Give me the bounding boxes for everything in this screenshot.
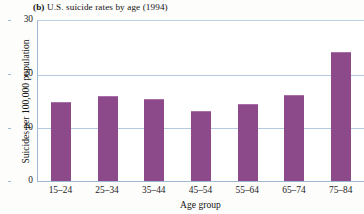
x-tick-label: 25–34: [84, 185, 131, 196]
bar[interactable]: [51, 102, 71, 181]
bar[interactable]: [191, 111, 211, 181]
bar[interactable]: [284, 95, 304, 181]
bar-slot: [131, 21, 178, 181]
x-tick-label: 75–84: [317, 185, 364, 196]
y-axis-label: Suicides per 100,000 population: [20, 14, 31, 189]
x-tick-label: 65–74: [271, 185, 318, 196]
bar-slot: [271, 21, 318, 181]
bar-slot: [38, 21, 85, 181]
bar-slot: [224, 21, 271, 181]
x-tick-label: 55–64: [224, 185, 271, 196]
y-tick-30: 30: [11, 15, 33, 24]
x-axis-line: [38, 181, 364, 182]
bar-slot: [178, 21, 225, 181]
bar[interactable]: [238, 104, 258, 181]
bar[interactable]: [98, 96, 118, 181]
bar-chart-figure: (b) U.S. suicide rates by age (1994) Sui…: [0, 0, 364, 214]
y-tick-10: 10: [11, 123, 33, 132]
plot-area: [37, 20, 364, 182]
bar[interactable]: [144, 99, 164, 181]
y-tick-20: 20: [11, 69, 33, 78]
y-tick-mark-0: [8, 181, 11, 182]
x-tick-label: 45–54: [177, 185, 224, 196]
y-tick-mark-30: [8, 20, 11, 21]
y-tick-mark-10: [8, 128, 11, 129]
x-tick-label: 35–44: [130, 185, 177, 196]
bar-slot: [85, 21, 132, 181]
y-tick-0: 0: [11, 176, 33, 185]
x-tick-label: 15–24: [37, 185, 84, 196]
bar[interactable]: [331, 52, 351, 181]
x-axis-tick-labels: 15–2425–3435–4445–5455–6465–7475–84: [37, 185, 364, 196]
chart-title: (b) U.S. suicide rates by age (1994): [33, 1, 168, 13]
panel-letter: (b): [33, 2, 45, 12]
x-axis-label: Age group: [37, 199, 364, 210]
y-tick-mark-20: [8, 74, 11, 75]
bar-series: [38, 21, 364, 181]
chart-title-text: U.S. suicide rates by age (1994): [45, 2, 168, 12]
bar-slot: [317, 21, 364, 181]
